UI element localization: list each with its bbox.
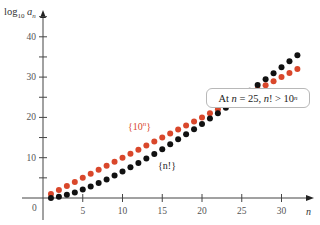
data-point	[96, 180, 102, 186]
data-point	[183, 131, 189, 137]
annotation-sup: n	[294, 94, 298, 102]
data-point	[271, 70, 277, 76]
data-point	[286, 58, 292, 64]
data-point	[191, 118, 197, 124]
data-point	[127, 164, 133, 170]
x-tick-label: 10	[118, 206, 128, 216]
data-point	[96, 167, 102, 173]
data-point	[120, 169, 126, 175]
data-point	[135, 147, 141, 153]
data-point	[48, 195, 54, 201]
data-point	[88, 183, 94, 189]
x-tick-label: 5	[80, 206, 85, 216]
y-tick-label: 10	[27, 153, 37, 163]
data-point	[72, 189, 78, 195]
data-point	[207, 116, 213, 122]
data-point	[294, 52, 300, 58]
data-point	[294, 66, 300, 72]
data-point	[64, 192, 70, 198]
legend-10n-text: {10	[128, 121, 143, 132]
y-tick-label: 20	[27, 112, 37, 122]
data-point	[80, 175, 86, 181]
data-point	[167, 131, 173, 137]
data-point	[279, 74, 285, 80]
data-point	[112, 159, 118, 165]
data-point	[151, 139, 157, 145]
x-tick-label: 20	[197, 206, 207, 216]
data-point	[159, 135, 165, 141]
annotation-gt: ! > 10	[269, 93, 294, 104]
data-point	[143, 156, 149, 162]
y-axis-label: log10 an	[4, 6, 36, 20]
y-axis-log: log	[4, 6, 17, 17]
x-tick-label: 30	[277, 206, 287, 216]
legend-nfact: {n!}	[158, 160, 176, 171]
data-point	[56, 187, 62, 193]
data-point	[88, 171, 94, 177]
data-point	[143, 143, 149, 149]
data-point	[191, 126, 197, 132]
data-point	[104, 163, 110, 169]
annotation-box: At n = 25, n! > 10n	[206, 88, 310, 108]
data-point	[215, 110, 221, 116]
data-point	[167, 141, 173, 147]
origin-label: 0	[32, 203, 37, 213]
chart-canvas: 5101520253010203040	[0, 0, 320, 225]
data-point	[135, 160, 141, 166]
x-tick-label: 25	[237, 206, 247, 216]
legend-10n: {10n}	[128, 120, 151, 132]
annotation-text-pre: At	[218, 93, 229, 104]
data-point	[279, 64, 285, 70]
y-tick-label: 30	[27, 72, 37, 82]
data-point	[175, 126, 181, 132]
x-axis-label: n	[306, 206, 311, 217]
data-point	[207, 110, 213, 116]
y-axis-log-base: 10	[17, 12, 24, 20]
data-point	[120, 155, 126, 161]
annotation-mid: = 25,	[237, 93, 264, 104]
data-point	[151, 151, 157, 157]
data-point	[80, 187, 86, 193]
data-points	[48, 52, 300, 201]
data-point	[199, 121, 205, 127]
data-point	[263, 76, 269, 82]
data-point	[199, 114, 205, 120]
data-point	[127, 151, 133, 157]
data-point	[271, 78, 277, 84]
data-point	[112, 173, 118, 179]
x-tick-label: 15	[158, 206, 168, 216]
data-point	[159, 146, 165, 152]
data-point	[72, 179, 78, 185]
data-point	[104, 176, 110, 182]
data-point	[183, 122, 189, 128]
data-point	[286, 70, 292, 76]
y-tick-label: 40	[27, 32, 37, 42]
y-axis-subscript: n	[32, 12, 36, 20]
data-point	[56, 194, 62, 200]
data-point	[175, 136, 181, 142]
data-point	[64, 183, 70, 189]
legend-10n-end: }	[146, 121, 151, 132]
